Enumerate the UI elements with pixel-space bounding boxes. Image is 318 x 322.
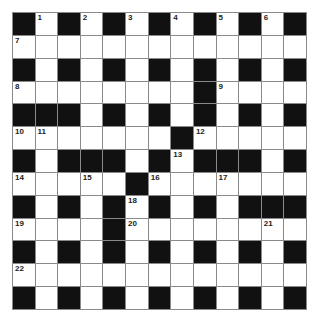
crossword-cell[interactable]: [217, 196, 239, 218]
crossword-cell[interactable]: [262, 150, 284, 172]
crossword-cell[interactable]: [217, 104, 239, 126]
crossword-cell[interactable]: [126, 287, 148, 309]
crossword-cell[interactable]: [81, 196, 103, 218]
crossword-cell[interactable]: [126, 82, 148, 104]
crossword-cell[interactable]: [194, 264, 216, 286]
crossword-cell[interactable]: [217, 127, 239, 149]
crossword-cell[interactable]: [36, 173, 58, 195]
crossword-cell[interactable]: [126, 150, 148, 172]
crossword-cell[interactable]: [58, 264, 80, 286]
crossword-cell[interactable]: [103, 82, 125, 104]
crossword-cell[interactable]: [262, 82, 284, 104]
crossword-cell[interactable]: [171, 287, 193, 309]
crossword-cell[interactable]: [284, 36, 306, 58]
crossword-cell[interactable]: [126, 104, 148, 126]
crossword-cell[interactable]: [36, 241, 58, 263]
crossword-cell[interactable]: [58, 36, 80, 58]
crossword-cell[interactable]: [239, 82, 261, 104]
crossword-cell[interactable]: [103, 36, 125, 58]
crossword-cell[interactable]: [217, 36, 239, 58]
crossword-cell[interactable]: [284, 264, 306, 286]
crossword-cell[interactable]: [81, 104, 103, 126]
crossword-cell[interactable]: [149, 127, 171, 149]
crossword-cell[interactable]: 19: [13, 219, 35, 241]
crossword-cell[interactable]: [262, 264, 284, 286]
crossword-cell[interactable]: [81, 264, 103, 286]
crossword-cell[interactable]: 4: [171, 13, 193, 35]
crossword-cell[interactable]: [81, 219, 103, 241]
crossword-cell[interactable]: [262, 36, 284, 58]
crossword-cell[interactable]: [239, 127, 261, 149]
crossword-cell[interactable]: 17: [217, 173, 239, 195]
crossword-cell[interactable]: [171, 173, 193, 195]
crossword-cell[interactable]: [126, 59, 148, 81]
crossword-cell[interactable]: [36, 219, 58, 241]
crossword-cell[interactable]: [36, 264, 58, 286]
crossword-cell[interactable]: [171, 196, 193, 218]
crossword-cell[interactable]: [126, 127, 148, 149]
crossword-cell[interactable]: [262, 104, 284, 126]
crossword-cell[interactable]: [126, 264, 148, 286]
crossword-cell[interactable]: [262, 127, 284, 149]
crossword-cell[interactable]: [58, 82, 80, 104]
crossword-cell[interactable]: [149, 36, 171, 58]
crossword-cell[interactable]: [284, 82, 306, 104]
crossword-cell[interactable]: [217, 241, 239, 263]
crossword-cell[interactable]: [171, 59, 193, 81]
crossword-cell[interactable]: [36, 82, 58, 104]
crossword-cell[interactable]: 15: [81, 173, 103, 195]
crossword-cell[interactable]: [81, 127, 103, 149]
crossword-cell[interactable]: [262, 287, 284, 309]
crossword-cell[interactable]: [171, 241, 193, 263]
crossword-cell[interactable]: [126, 36, 148, 58]
crossword-cell[interactable]: [171, 82, 193, 104]
crossword-cell[interactable]: [217, 219, 239, 241]
crossword-cell[interactable]: [239, 36, 261, 58]
crossword-cell[interactable]: 6: [262, 13, 284, 35]
crossword-cell[interactable]: [36, 150, 58, 172]
crossword-cell[interactable]: 2: [81, 13, 103, 35]
crossword-cell[interactable]: [262, 241, 284, 263]
crossword-cell[interactable]: [58, 127, 80, 149]
crossword-cell[interactable]: [284, 219, 306, 241]
crossword-cell[interactable]: [171, 36, 193, 58]
crossword-cell[interactable]: 5: [217, 13, 239, 35]
crossword-cell[interactable]: [126, 241, 148, 263]
crossword-cell[interactable]: 14: [13, 173, 35, 195]
crossword-cell[interactable]: [171, 264, 193, 286]
crossword-cell[interactable]: 1: [36, 13, 58, 35]
crossword-cell[interactable]: [171, 104, 193, 126]
crossword-cell[interactable]: 18: [126, 196, 148, 218]
crossword-cell[interactable]: [103, 264, 125, 286]
crossword-cell[interactable]: [194, 36, 216, 58]
crossword-cell[interactable]: 21: [262, 219, 284, 241]
crossword-cell[interactable]: [81, 36, 103, 58]
crossword-cell[interactable]: [194, 219, 216, 241]
crossword-cell[interactable]: [36, 287, 58, 309]
crossword-cell[interactable]: [149, 82, 171, 104]
crossword-cell[interactable]: [58, 219, 80, 241]
crossword-cell[interactable]: [239, 173, 261, 195]
crossword-cell[interactable]: 8: [13, 82, 35, 104]
crossword-cell[interactable]: [284, 173, 306, 195]
crossword-cell[interactable]: [217, 264, 239, 286]
crossword-cell[interactable]: [81, 241, 103, 263]
crossword-cell[interactable]: [149, 264, 171, 286]
crossword-cell[interactable]: 10: [13, 127, 35, 149]
crossword-cell[interactable]: [36, 196, 58, 218]
crossword-cell[interactable]: 22: [13, 264, 35, 286]
crossword-cell[interactable]: [239, 264, 261, 286]
crossword-cell[interactable]: 3: [126, 13, 148, 35]
crossword-cell[interactable]: [103, 127, 125, 149]
crossword-cell[interactable]: [262, 173, 284, 195]
crossword-cell[interactable]: 9: [217, 82, 239, 104]
crossword-cell[interactable]: [239, 219, 261, 241]
crossword-cell[interactable]: [217, 287, 239, 309]
crossword-cell[interactable]: [217, 59, 239, 81]
crossword-cell[interactable]: [58, 173, 80, 195]
crossword-cell[interactable]: 20: [126, 219, 148, 241]
crossword-cell[interactable]: [284, 127, 306, 149]
crossword-cell[interactable]: [149, 219, 171, 241]
crossword-cell[interactable]: [262, 59, 284, 81]
crossword-cell[interactable]: [36, 59, 58, 81]
